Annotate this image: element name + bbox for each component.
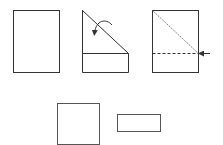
step-2-folded-rectangle xyxy=(83,10,129,73)
result-square xyxy=(58,104,100,145)
step-1-rectangle xyxy=(14,11,60,73)
diagonal-fold-line xyxy=(153,11,199,54)
curved-fold-arrow-icon xyxy=(95,21,113,33)
paper-folding-diagram xyxy=(0,0,223,145)
step-3-fold-lines xyxy=(153,11,211,73)
result-strip xyxy=(118,115,161,132)
